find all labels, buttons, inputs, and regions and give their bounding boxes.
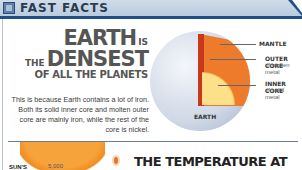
thermometer-icon <box>112 155 120 166</box>
headline-densest: DENSEST <box>47 47 148 71</box>
mantle-leader-line <box>220 44 256 45</box>
sun-temperature-value: 5,000 <box>48 163 63 169</box>
label-mantle: MANTLE <box>259 40 287 47</box>
headline-is: IS <box>138 37 148 47</box>
section-title: FAST FACTS <box>20 1 109 15</box>
fast-facts-logo-icon <box>3 2 15 14</box>
outer-core-description: of molten metal <box>265 62 295 76</box>
headline-the: THE <box>25 58 45 68</box>
headline: EARTHIS THEDENSEST OF ALL THE PLANETS <box>20 28 148 80</box>
section-header: FAST FACTS <box>0 0 302 19</box>
label-earth: EARTH <box>194 113 216 120</box>
inner-core-layer <box>202 67 238 105</box>
header-corner-cutout <box>292 0 302 13</box>
left-border-rule <box>2 19 3 170</box>
outer-core-leader-line <box>210 59 256 60</box>
body-paragraph: This is because Earth contains a lot of … <box>8 95 149 135</box>
inner-core-description: of solid metal <box>265 87 295 101</box>
inner-core-leader-line <box>218 85 256 86</box>
next-fact-title: THE TEMPERATURE AT <box>134 154 287 169</box>
headline-subline: OF ALL THE PLANETS <box>20 70 148 80</box>
sun-label: SUN'S <box>9 164 27 170</box>
